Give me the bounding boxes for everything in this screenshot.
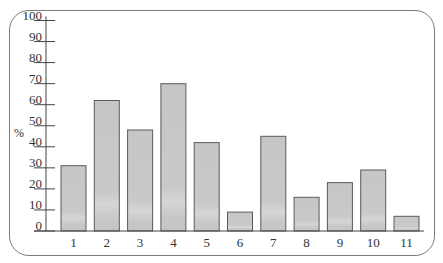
bar-9 (327, 183, 352, 231)
y-tick-label: 100 (23, 8, 43, 23)
bar-1 (61, 166, 86, 231)
x-tick-label: 9 (337, 235, 344, 250)
x-tick-label: 8 (303, 235, 310, 250)
y-tick-label: 20 (29, 176, 42, 191)
x-tick-label: 5 (203, 235, 210, 250)
x-tick-label: 2 (104, 235, 111, 250)
y-tick-label: 70 (29, 71, 42, 86)
y-axis-label: % (14, 126, 24, 140)
x-tick-label: 11 (400, 235, 413, 250)
y-axis: 0102030405060708090100 (23, 8, 56, 234)
bar-10 (361, 170, 386, 231)
x-tick-label: 3 (137, 235, 144, 250)
y-tick-label: 60 (29, 92, 42, 107)
bar-6 (228, 212, 253, 231)
y-tick-label: 10 (29, 197, 42, 212)
x-tick-label: 7 (270, 235, 277, 250)
y-tick-label: 50 (29, 113, 42, 128)
bars (61, 84, 419, 231)
bar-11 (394, 216, 419, 231)
y-tick-label: 30 (29, 155, 42, 170)
bar-4 (161, 84, 186, 231)
y-tick-label: 80 (29, 50, 42, 65)
x-tick-label: 1 (70, 235, 77, 250)
x-tick-label: 6 (237, 235, 244, 250)
x-axis: 1234567891011 (34, 231, 424, 250)
bar-2 (94, 101, 119, 232)
bar-5 (194, 143, 219, 231)
bar-7 (261, 136, 286, 231)
y-tick-label: 40 (29, 134, 42, 149)
bar-3 (128, 130, 153, 231)
y-tick-label: 90 (29, 29, 42, 44)
x-tick-label: 4 (170, 235, 177, 250)
x-tick-label: 10 (367, 235, 380, 250)
bar-8 (294, 197, 319, 231)
bar-chart: 0102030405060708090100 1234567891011 % (0, 0, 443, 263)
